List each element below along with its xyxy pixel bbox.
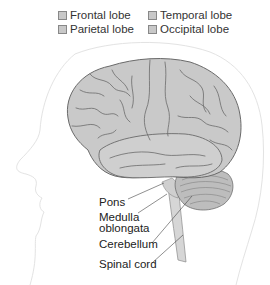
label-pons: Pons [99, 196, 125, 208]
pons-leader [128, 183, 164, 199]
medulla-leader [138, 194, 167, 213]
label-spinal-cord: Spinal cord [99, 258, 157, 270]
label-medulla-line2: oblongata [99, 222, 150, 234]
label-cerebellum: Cerebellum [99, 238, 158, 250]
